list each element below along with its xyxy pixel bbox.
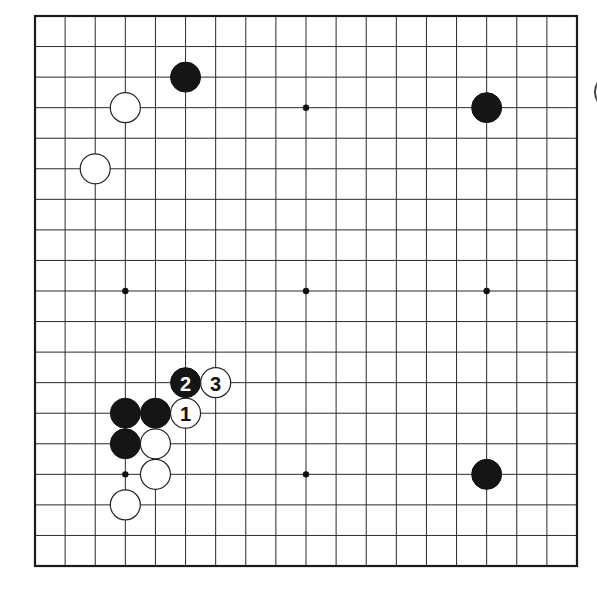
white-stone-disc — [110, 93, 140, 123]
white-stone-disc — [80, 154, 110, 184]
white-stone — [110, 93, 140, 123]
white-stone-disc — [110, 490, 140, 520]
black-stone-disc — [472, 459, 502, 489]
black-stone-disc — [110, 398, 140, 428]
star-point — [122, 471, 128, 477]
white-stone-move-1: 1 — [171, 398, 201, 428]
white-stone — [140, 459, 170, 489]
star-point — [122, 288, 128, 294]
black-stone-disc — [472, 93, 502, 123]
black-stone-disc — [171, 62, 201, 92]
move-number-label: 1 — [180, 403, 191, 425]
black-stone — [110, 398, 140, 428]
black-stone — [110, 429, 140, 459]
star-point — [483, 288, 489, 294]
black-stone — [140, 398, 170, 428]
white-stone — [140, 429, 170, 459]
star-point — [303, 471, 309, 477]
black-stone — [171, 62, 201, 92]
white-stone-disc — [140, 429, 170, 459]
white-stone — [110, 490, 140, 520]
go-board: 123 — [0, 0, 597, 610]
white-stone — [80, 154, 110, 184]
star-point — [303, 288, 309, 294]
black-stone-disc — [110, 429, 140, 459]
black-stone-disc — [140, 398, 170, 428]
white-stone-move-3: 3 — [201, 368, 231, 398]
move-number-label: 3 — [210, 373, 221, 395]
move-number-label: 2 — [180, 373, 191, 395]
white-stone-disc — [140, 459, 170, 489]
black-stone-move-2: 2 — [171, 368, 201, 398]
black-stone — [472, 93, 502, 123]
black-stone — [472, 459, 502, 489]
star-point — [303, 104, 309, 110]
